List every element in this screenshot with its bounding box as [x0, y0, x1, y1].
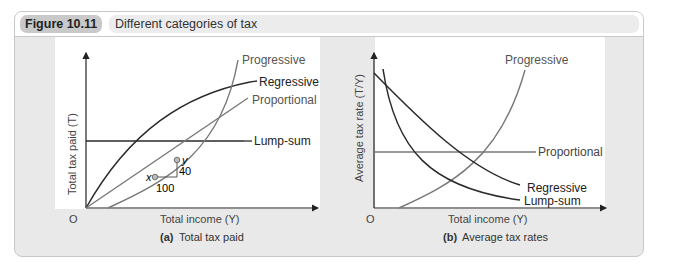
panel-a-y-label: Total tax paid (T) [66, 113, 78, 195]
panel-b-y-label: Average tax rate (T/Y) [353, 74, 365, 182]
panel-a-label-regressive: Regressive [259, 75, 319, 89]
panel-a-label-proportional: Proportional [252, 93, 317, 107]
panel-a-origin: O [69, 213, 78, 225]
panel-a-x-label: Total income (Y) [160, 213, 239, 225]
panel-a-caption-label: (a) [160, 231, 174, 243]
panel-b-origin: O [366, 213, 375, 225]
panel-b: Progressive Proportional Regressive Lump… [353, 37, 606, 243]
panel-a: x y 40 100 Progressive Regressive Propor… [55, 37, 320, 243]
label-run: 100 [156, 182, 174, 194]
label-x-point: x [145, 171, 152, 183]
panel-b-label-proportional: Proportional [538, 145, 603, 159]
panel-a-label-lumpsum: Lump-sum [254, 134, 311, 148]
panel-b-label-lumpsum: Lump-sum [524, 194, 581, 208]
panel-a-caption-text: Total tax paid [179, 231, 244, 243]
panel-b-x-label: Total income (Y) [448, 213, 527, 225]
panel-a-label-progressive: Progressive [242, 53, 306, 67]
point-x [152, 174, 158, 180]
panel-b-label-progressive: Progressive [505, 53, 569, 67]
panel-b-caption-text: Average tax rates [462, 231, 549, 243]
panel-b-caption-label: (b) [443, 231, 457, 243]
panel-b-label-regressive: Regressive [527, 181, 587, 195]
label-rise: 40 [179, 165, 191, 177]
point-y [174, 157, 180, 163]
charts-svg: x y 40 100 Progressive Regressive Propor… [0, 0, 673, 267]
